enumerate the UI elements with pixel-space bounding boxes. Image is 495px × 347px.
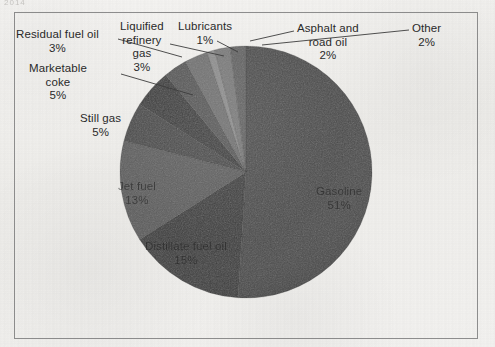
label-other: Other 2% bbox=[412, 22, 441, 49]
label-asphalt-text1: Asphalt and bbox=[297, 22, 359, 34]
label-asphalt-pct: 2% bbox=[297, 49, 359, 63]
label-gasoline-pct: 51% bbox=[316, 199, 362, 213]
label-marketable-coke-pct: 5% bbox=[29, 89, 87, 103]
label-residual-fuel-oil: Residual fuel oil 3% bbox=[16, 28, 99, 55]
label-marketable-coke: Marketable coke 5% bbox=[29, 62, 87, 103]
label-lubricants-text: Lubricants bbox=[178, 20, 232, 32]
label-still-gas-text: Still gas bbox=[80, 112, 121, 124]
label-jet-fuel-text: Jet fuel bbox=[118, 180, 156, 192]
label-residual-fuel-oil-pct: 3% bbox=[16, 42, 99, 56]
label-lubricants-pct: 1% bbox=[178, 34, 232, 48]
label-lrg-text1: Liquified bbox=[120, 20, 164, 32]
label-distillate-text: Distillate fuel oil bbox=[145, 240, 227, 252]
label-gasoline-text: Gasoline bbox=[316, 185, 362, 197]
label-liquified-refinery-gas: Liquified refinery gas 3% bbox=[120, 20, 164, 74]
label-gasoline: Gasoline 51% bbox=[316, 185, 362, 212]
label-marketable-coke-text2: coke bbox=[29, 76, 87, 90]
label-jet-fuel: Jet fuel 13% bbox=[118, 180, 156, 207]
label-still-gas-pct: 5% bbox=[80, 126, 121, 140]
label-other-pct: 2% bbox=[412, 36, 441, 50]
label-other-text: Other bbox=[412, 22, 441, 34]
label-lubricants: Lubricants 1% bbox=[178, 20, 232, 47]
label-asphalt-road-oil: Asphalt and road oil 2% bbox=[297, 22, 359, 63]
leader-line-5 bbox=[250, 31, 294, 41]
label-lrg-text2: refinery bbox=[120, 34, 164, 48]
label-distillate-fuel-oil: Distillate fuel oil 15% bbox=[145, 240, 227, 267]
label-lrg-text3: gas bbox=[120, 47, 164, 61]
label-still-gas: Still gas 5% bbox=[80, 112, 121, 139]
label-lrg-pct: 3% bbox=[120, 61, 164, 75]
label-jet-fuel-pct: 13% bbox=[118, 194, 156, 208]
label-asphalt-text2: road oil bbox=[297, 36, 359, 50]
label-residual-fuel-oil-text: Residual fuel oil bbox=[16, 28, 99, 40]
label-distillate-pct: 15% bbox=[145, 254, 227, 268]
label-marketable-coke-text: Marketable bbox=[29, 62, 87, 74]
